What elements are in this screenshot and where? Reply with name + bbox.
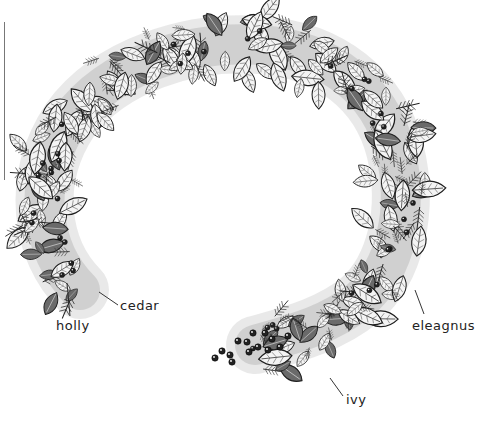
label-holly: holly [56, 318, 90, 333]
label-ivy: ivy [346, 392, 367, 407]
label-eleagnus: eleagnus [412, 318, 475, 333]
label-cedar: cedar [120, 298, 159, 313]
garland-illustration [0, 0, 484, 422]
